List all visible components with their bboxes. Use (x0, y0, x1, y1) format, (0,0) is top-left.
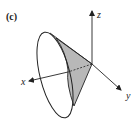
y-axis-label: y (125, 90, 131, 101)
x-axis-label: x (20, 76, 26, 87)
y-axis (92, 64, 121, 90)
z-axis-label: z (96, 9, 101, 20)
x-axis (29, 72, 68, 81)
panel-label: (c) (6, 11, 17, 23)
cone-diagram: (c) z y x (0, 0, 137, 119)
